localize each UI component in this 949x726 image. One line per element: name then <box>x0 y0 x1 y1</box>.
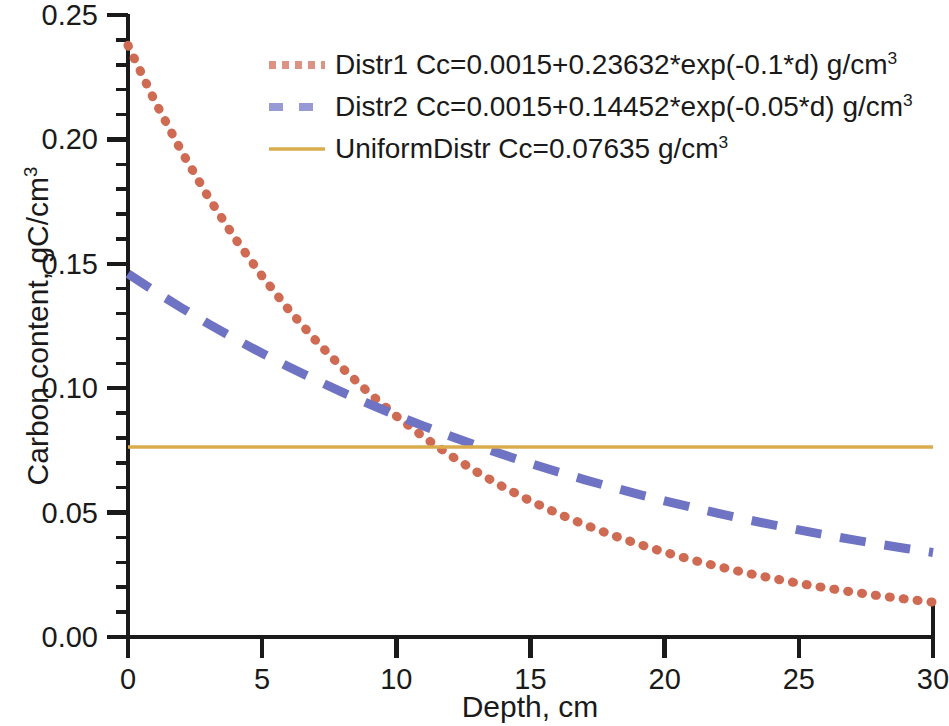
y-axis-title: Carbon content, gC/cm3 <box>21 167 55 486</box>
x-tick-label: 0 <box>120 663 136 696</box>
legend-item-distr2: Distr2 Cc=0.0015+0.14452*exp(-0.05*d) g/… <box>268 86 928 128</box>
legend-item-uniformdistr: UniformDistr Cc=0.07635 g/cm3 <box>268 128 928 170</box>
chart-legend: Distr1 Cc=0.0015+0.23632*exp(-0.1*d) g/c… <box>268 44 928 170</box>
x-tick-label: 20 <box>649 663 681 696</box>
x-tick-label: 30 <box>917 663 949 696</box>
legend-swatch-dashed-icon <box>268 95 326 119</box>
x-tick-label: 10 <box>380 663 412 696</box>
legend-swatch-solid-icon <box>268 137 326 161</box>
x-tick-label: 25 <box>783 663 815 696</box>
x-axis-title: Depth, cm <box>462 690 599 724</box>
legend-item-distr1: Distr1 Cc=0.0015+0.23632*exp(-0.1*d) g/c… <box>268 44 928 86</box>
x-tick-label: 5 <box>254 663 270 696</box>
legend-label: Distr1 Cc=0.0015+0.23632*exp(-0.1*d) g/c… <box>335 51 897 79</box>
legend-label: Distr2 Cc=0.0015+0.14452*exp(-0.05*d) g/… <box>335 93 913 121</box>
series-line-distr2 <box>128 274 933 553</box>
y-tick-label: 0.00 <box>0 621 98 654</box>
legend-swatch-dotted-icon <box>268 53 326 77</box>
y-tick-label: 0.25 <box>0 0 98 32</box>
legend-label: UniformDistr Cc=0.07635 g/cm3 <box>335 135 728 163</box>
y-tick-label: 0.20 <box>0 123 98 156</box>
y-tick-label: 0.05 <box>0 496 98 529</box>
